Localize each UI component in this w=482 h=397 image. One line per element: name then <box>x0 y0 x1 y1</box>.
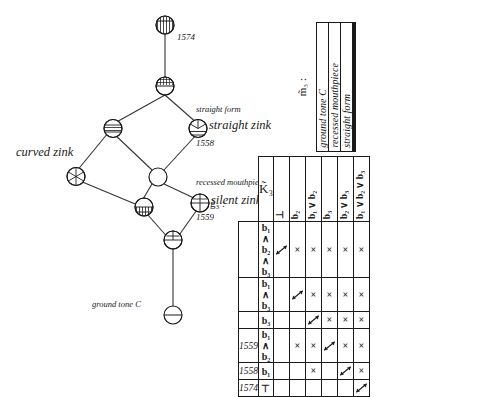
cross-icon: × <box>295 244 301 255</box>
lattice-node-bottom <box>164 306 182 324</box>
incidence-cross-cell[interactable]: × <box>353 363 369 380</box>
upper-col-ground-tone-c: ground tone C <box>317 23 329 152</box>
row-year-label: 1574 <box>239 380 259 397</box>
cross-icon: × <box>359 365 365 376</box>
incidence-empty-cell[interactable] <box>289 312 305 329</box>
lattice-node-straight-zink <box>189 120 207 138</box>
cross-icon: × <box>311 340 317 351</box>
lower-col-header-label: b₂ ∨ b₃ <box>338 188 349 221</box>
lattice-node-silent-zink <box>191 194 209 212</box>
lower-header-corner-blank <box>239 157 259 222</box>
lower-col-header-4: b₂ ∨ b₃ <box>337 157 353 222</box>
lattice-node-center <box>149 168 167 186</box>
incidence-cross-cell[interactable]: × <box>353 329 369 363</box>
row-year-label: 1558 <box>239 363 259 380</box>
incidence-arrow-cell[interactable] <box>337 363 353 380</box>
lattice-label-curved-zink: curved zink <box>16 146 73 159</box>
lower-col-header-3: b₃ <box>321 157 337 222</box>
lattice-label-year-1558: 1558 <box>196 139 214 148</box>
incidence-cross-cell[interactable]: × <box>305 222 321 278</box>
lattice-label-year-1559: 1559 <box>196 213 214 222</box>
lower-col-header-label: b₂ <box>290 208 300 221</box>
incidence-arrow-cell[interactable] <box>305 312 321 329</box>
incidence-cross-cell[interactable]: × <box>321 222 337 278</box>
lattice-label-straight-zink: straight zink <box>209 119 271 132</box>
incidence-cross-cell[interactable]: × <box>305 363 321 380</box>
incidence-empty-cell[interactable] <box>321 363 337 380</box>
incidence-cross-cell[interactable]: × <box>353 312 369 329</box>
cross-icon: × <box>327 314 333 325</box>
cross-icon: × <box>311 244 317 255</box>
upper-col-recessed-mouthpiece: recessed mouthpiece <box>329 23 341 152</box>
incidence-empty-cell[interactable] <box>289 380 305 397</box>
incidence-cross-cell[interactable]: × <box>337 312 353 329</box>
incidence-arrow-cell[interactable] <box>353 380 369 397</box>
table-row: b₁ ∧ b₂ ∧ b₃××××× <box>239 222 370 278</box>
row-object-label: ⊤ <box>259 380 274 397</box>
row-year-label <box>239 312 259 329</box>
incidence-cross-cell[interactable]: × <box>353 278 369 312</box>
lower-col-header-0: ⊥ <box>273 157 289 222</box>
incidence-empty-cell[interactable] <box>305 380 321 397</box>
order-arrow-icon <box>338 364 353 378</box>
order-arrow-icon <box>274 243 289 257</box>
order-arrow-icon <box>322 339 337 353</box>
incidence-arrow-cell[interactable] <box>273 222 289 278</box>
concept-lattice-diagram: 1574 straight form straight zink 1558 cu… <box>0 0 250 339</box>
cross-icon: × <box>327 289 333 300</box>
lower-col-header-label: b₁ ∨ b₂ <box>306 188 317 221</box>
upper-col-straight-form: straight form <box>341 23 353 152</box>
row-object-label: b₁ ∧ b₂ ∧ b₃ <box>259 222 274 278</box>
incidence-cross-cell[interactable]: × <box>305 329 321 363</box>
incidence-empty-cell[interactable] <box>337 380 353 397</box>
incidence-cross-cell[interactable]: × <box>305 278 321 312</box>
incidence-empty-cell[interactable] <box>273 278 289 312</box>
incidence-empty-cell[interactable] <box>273 380 289 397</box>
table-row: 1558b₁×× <box>239 363 370 380</box>
cross-icon: × <box>311 365 317 376</box>
lower-col-header-label: ⊥ <box>274 207 285 221</box>
incidence-empty-cell[interactable] <box>273 312 289 329</box>
upper-header-row: ground tone C recessed mouthpiece straig… <box>317 23 356 152</box>
cross-icon: × <box>343 289 349 300</box>
incidence-empty-cell[interactable] <box>273 363 289 380</box>
cross-icon: × <box>343 314 349 325</box>
incidence-cross-cell[interactable]: × <box>289 329 305 363</box>
incidence-cross-cell[interactable]: × <box>337 222 353 278</box>
incidence-arrow-cell[interactable] <box>321 329 337 363</box>
incidence-cross-cell[interactable]: × <box>289 222 305 278</box>
row-object-label: b₃ <box>259 312 274 329</box>
order-arrow-icon <box>354 381 369 395</box>
upper-table-row-label: m̃₃ : <box>296 78 308 96</box>
lower-header-context-label: K̃₃ <box>259 157 274 222</box>
cross-icon: × <box>359 314 365 325</box>
lower-col-header-label: b₁ ∨ b₂ ∨ b₃ <box>354 168 365 221</box>
incidence-cross-cell[interactable]: × <box>321 278 337 312</box>
incidence-cross-cell[interactable]: × <box>321 312 337 329</box>
lattice-svg <box>0 0 250 339</box>
incidence-empty-cell[interactable] <box>273 329 289 363</box>
upper-col-label: recessed mouthpiece <box>329 59 340 151</box>
row-object-label: b₁ <box>259 363 274 380</box>
row-year-label <box>239 222 259 278</box>
lower-col-header-2: b₁ ∨ b₂ <box>305 157 321 222</box>
incidence-cross-cell[interactable]: × <box>337 278 353 312</box>
upper-col-label: ground tone C <box>317 85 328 151</box>
row-year-label <box>239 278 259 312</box>
incidence-cross-cell[interactable]: × <box>353 222 369 278</box>
lattice-node-upper-mid <box>156 77 174 95</box>
cross-icon: × <box>311 289 317 300</box>
row-object-label: b₁ ∧ b₃ <box>259 278 274 312</box>
incidence-empty-cell[interactable] <box>321 380 337 397</box>
lattice-node-lower-left <box>135 198 153 216</box>
lower-table-row-label: g̃₃ : <box>210 197 225 209</box>
table-row: b₁ ∧ b₃×××× <box>239 278 370 312</box>
incidence-empty-cell[interactable] <box>289 363 305 380</box>
lower-table-body: b₁ ∧ b₂ ∧ b₃×××××b₁ ∧ b₃××××b₃×××1559b₁ … <box>239 222 370 397</box>
incidence-arrow-cell[interactable] <box>289 278 305 312</box>
lower-col-header-1: b₂ <box>289 157 305 222</box>
lattice-node-lower-mid <box>164 231 182 249</box>
lattice-node-curved-zink <box>67 168 85 186</box>
incidence-cross-cell[interactable]: × <box>337 329 353 363</box>
upper-col-empty-3 <box>355 23 356 152</box>
